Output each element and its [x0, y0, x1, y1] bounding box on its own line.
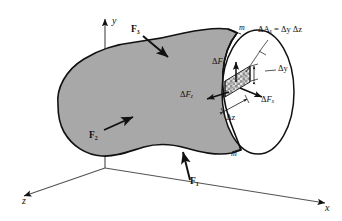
delta-area-callout-label: ΔAx = Δy Δz	[258, 25, 302, 35]
force-F1-sub: 1	[196, 181, 199, 187]
force-F3-label: F3	[131, 25, 140, 36]
section-marker-bottom: m	[231, 150, 237, 158]
delta-Fx-sub: x	[272, 98, 274, 104]
delta-Fy-sub: y	[223, 60, 225, 66]
body-solid	[58, 28, 241, 156]
delta-z-label: Δz	[226, 113, 235, 122]
callout-expr: Δy Δz	[281, 24, 302, 34]
delta-y-label: Δy	[278, 64, 288, 73]
delta-Fz-label: ΔFz	[180, 90, 193, 100]
z-axis	[24, 168, 105, 196]
x-axis-label: x	[325, 203, 329, 213]
delta-Fz-sub: z	[191, 93, 193, 99]
callout-equals: =	[272, 24, 281, 34]
callout-lead: ΔA	[258, 24, 270, 34]
figure-canvas: y x z F3 F2 F1 m m ΔFy ΔFx ΔFz Δy Δz ΔAx…	[0, 0, 342, 221]
section-marker-top: m	[239, 24, 245, 32]
force-F2-label: F2	[89, 131, 98, 142]
body-lateral-surface	[58, 28, 241, 156]
delta-Fx-label: ΔFx	[261, 95, 274, 105]
y-axis-label: y	[112, 16, 116, 26]
x-axis	[105, 168, 325, 203]
delta-Fy-label: ΔFy	[212, 57, 225, 67]
z-axis-label: z	[22, 196, 26, 206]
force-F1-label: F1	[190, 177, 199, 188]
force-F2-sub: 2	[95, 135, 98, 141]
F1-arrow	[183, 152, 190, 180]
force-F3-sub: 3	[137, 29, 140, 35]
